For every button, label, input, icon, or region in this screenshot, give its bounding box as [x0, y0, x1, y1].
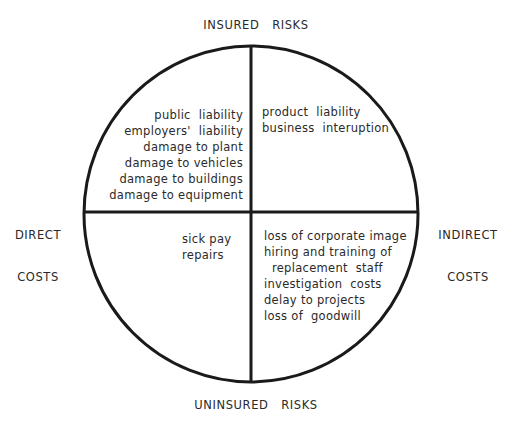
list-item: damage to plant [109, 139, 243, 155]
axis-label-indirect-costs: INDIRECT COSTS [424, 200, 512, 298]
axis-label-direct-costs: DIRECT COSTS [0, 200, 76, 298]
axis-label-direct-line1: DIRECT [0, 228, 76, 242]
list-item: employers' liability [109, 123, 243, 139]
quadrant-insured-indirect: product liability business interuption [262, 104, 389, 136]
quadrant-uninsured-indirect: loss of corporate image hiring and train… [264, 228, 407, 324]
axis-label-uninsured-risks: UNINSURED RISKS [0, 398, 512, 412]
list-item: public liability [109, 107, 243, 123]
list-item: repairs [182, 247, 231, 263]
list-item: investigation costs [264, 276, 407, 292]
list-item: damage to buildings [109, 171, 243, 187]
list-item: hiring and training of [264, 244, 407, 260]
list-item: delay to projects [264, 292, 407, 308]
list-item: sick pay [182, 231, 231, 247]
list-item: loss of goodwill [264, 308, 407, 324]
list-item: damage to equipment [109, 187, 243, 203]
quadrant-uninsured-direct: sick pay repairs [182, 231, 231, 263]
axis-label-indirect-line1: INDIRECT [424, 228, 512, 242]
list-item: product liability [262, 104, 389, 120]
list-item: business interuption [262, 120, 389, 136]
list-item: loss of corporate image [264, 228, 407, 244]
list-item: damage to vehicles [109, 155, 243, 171]
quadrant-insured-direct: public liability employers' liability da… [109, 107, 243, 203]
axis-label-indirect-line2: COSTS [424, 270, 512, 284]
axis-label-direct-line2: COSTS [0, 270, 76, 284]
axis-label-insured-risks: INSURED RISKS [0, 18, 512, 32]
list-item: replacement staff [264, 260, 407, 276]
